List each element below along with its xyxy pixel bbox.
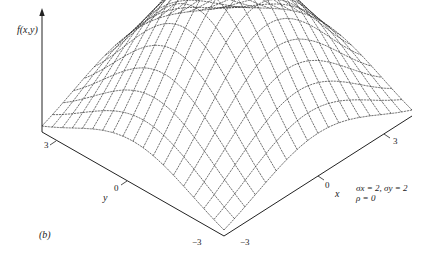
z-axis-arrowhead-icon	[39, 8, 44, 16]
mesh-line-x	[188, 0, 370, 116]
mesh-line-y	[133, 0, 321, 141]
x-tick-label-0: 0	[325, 181, 330, 190]
y-tick-label-neg3: −3	[192, 238, 202, 247]
y-tick-label-0: 0	[114, 184, 119, 193]
panel-label: (b)	[39, 230, 51, 240]
mesh-line-y	[163, 0, 351, 165]
mesh-line-x	[146, 0, 328, 127]
mesh-line-x	[73, 68, 255, 195]
mesh-line-x	[126, 0, 308, 141]
mesh-line-y	[93, 0, 281, 129]
x-axis-label: x	[335, 189, 339, 199]
mesh-line-x	[52, 111, 234, 219]
mesh-line-y	[42, 6, 230, 126]
mesh-line-x	[220, 4, 402, 112]
y-tick-0	[121, 181, 127, 185]
y-tick-label-3: 3	[44, 141, 49, 150]
x-tick-label-neg3: −3	[240, 238, 250, 247]
mesh-line-x	[84, 45, 266, 182]
mesh-line-y	[194, 60, 382, 197]
y-tick-3	[50, 141, 56, 145]
mesh-line-x	[105, 4, 287, 160]
y-axis-label: y	[103, 193, 107, 203]
z-axis-label: f(x,y)	[17, 25, 38, 35]
mesh-line-x	[230, 6, 412, 110]
mesh-line-x	[157, 0, 339, 123]
mesh-line-y	[52, 7, 240, 127]
x-tick-0	[318, 176, 324, 180]
mesh-line-x	[167, 0, 349, 120]
mesh-line-x	[94, 24, 276, 171]
y-axis-base-line	[42, 132, 224, 236]
x-tick-3	[384, 134, 390, 138]
mesh-line-x	[199, 0, 381, 115]
x-tick-label-3: 3	[393, 137, 398, 146]
mesh-line-y	[184, 39, 372, 186]
mesh-line-x	[63, 90, 245, 207]
sigma-parameters: σx = 2, σy = 2	[356, 184, 408, 193]
mesh-line-y	[153, 0, 341, 156]
surface-plot	[0, 0, 428, 254]
rho-parameter: ρ = 0	[356, 194, 375, 203]
mesh-line-x	[42, 126, 224, 230]
